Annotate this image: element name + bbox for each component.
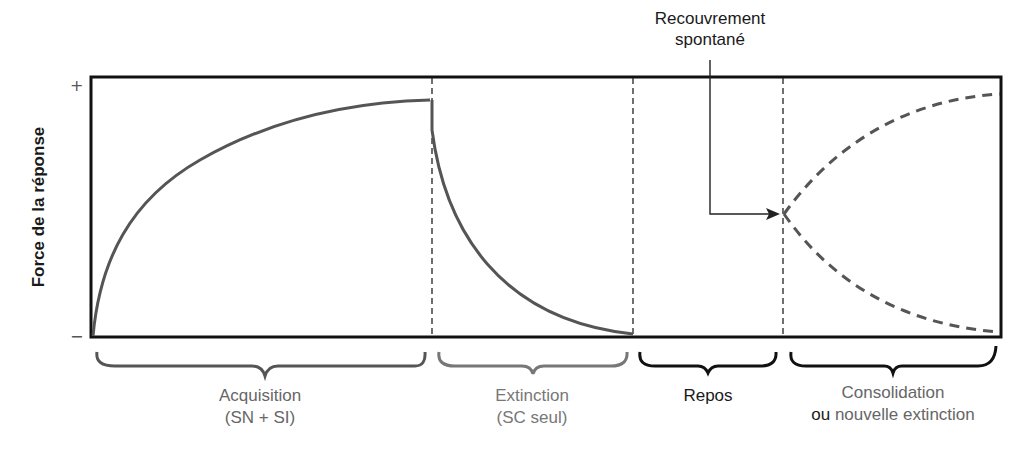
phase-sublabel-extinction: (SC seul) (497, 408, 568, 427)
phase-sublabel-consolidation: ou nouvelle extinction (811, 405, 975, 424)
annotation-line2: spontané (675, 30, 745, 49)
y-tick-minus: − (70, 327, 83, 346)
brace-extinction (439, 352, 627, 374)
phase-sublabel-ou: ou (811, 405, 830, 424)
y-tick-plus: + (70, 76, 83, 95)
phase-label-acquisition: Acquisition (219, 386, 301, 405)
brace-consolidation (791, 346, 996, 373)
extinction-curve (432, 100, 633, 334)
phase-label-extinction: Extinction (495, 386, 569, 405)
new-extinction-dashed-curve (784, 214, 1000, 332)
consolidation-dashed-curve (784, 94, 1000, 214)
phase-sublabel-nouvelle-extinction: nouvelle extinction (830, 405, 975, 424)
plot-frame (91, 77, 1001, 337)
acquisition-curve (93, 100, 430, 336)
phase-sublabel-acquisition: (SN + SI) (225, 408, 295, 427)
brace-repos (640, 352, 776, 373)
learning-curve-diagram: + − Force de la réponse Recouvrement spo… (0, 0, 1027, 455)
y-axis-label: Force de la réponse (29, 127, 48, 288)
annotation-line1: Recouvrement (655, 9, 766, 28)
phase-label-repos: Repos (683, 386, 732, 405)
phase-label-consolidation: Consolidation (841, 383, 944, 402)
recovery-arrow-line (710, 60, 770, 214)
brace-acquisition (97, 352, 425, 376)
